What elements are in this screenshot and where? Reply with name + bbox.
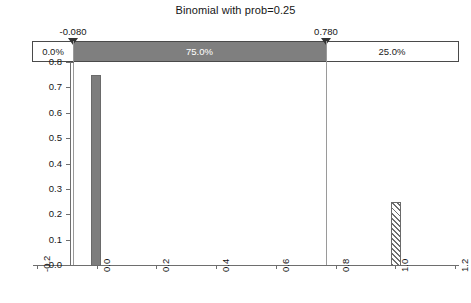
x-axis-label: 0.2 — [160, 259, 171, 272]
y-axis-line — [70, 62, 71, 265]
x-axis-tick — [276, 265, 277, 269]
y-axis-label: 0.5 — [36, 133, 62, 143]
probability-segment-between: 75.0% — [73, 42, 326, 61]
y-axis-label: 0.2 — [36, 209, 62, 219]
y-axis-cap-top — [70, 62, 74, 63]
x-axis-tick — [97, 265, 98, 269]
reference-line--0.080 — [73, 41, 74, 265]
x-axis-label: 1.0 — [399, 259, 410, 272]
right-marker-label: 0.780 — [295, 26, 357, 37]
x-axis-label: 0.8 — [340, 259, 351, 272]
probability-segment-above: 25.0% — [326, 42, 458, 61]
y-axis-tick — [66, 189, 70, 190]
y-axis-tick — [66, 214, 70, 215]
binomial-distribution-chart: Binomial with prob=0.25 0.0% 75.0% 25.0%… — [0, 0, 471, 303]
x-axis-label: 0.0 — [101, 259, 112, 272]
y-axis-label: 0.4 — [36, 159, 62, 169]
y-axis-tick — [66, 138, 70, 139]
x-axis-tick — [455, 265, 456, 269]
y-axis-label: 0.7 — [36, 82, 62, 92]
y-axis-label: 0.1 — [36, 235, 62, 245]
y-axis-tick — [66, 164, 70, 165]
x-axis-label: -0.2 — [41, 256, 52, 272]
reference-line-0.780 — [326, 41, 327, 265]
bar-x-1.0 — [391, 202, 401, 266]
y-axis-tick — [66, 87, 70, 88]
y-axis-tick — [66, 240, 70, 241]
x-axis-tick — [37, 265, 38, 269]
x-axis-label: 0.6 — [280, 259, 291, 272]
x-axis-tick — [395, 265, 396, 269]
x-axis-tick — [336, 265, 337, 269]
x-axis-tick — [156, 265, 157, 269]
bar-x-0.0 — [91, 75, 101, 266]
y-axis-tick — [66, 265, 70, 266]
chart-title: Binomial with prob=0.25 — [0, 4, 471, 16]
y-axis-label: 0.8 — [36, 57, 62, 67]
left-marker-label: -0.080 — [42, 26, 104, 37]
y-axis-label: 0.3 — [36, 184, 62, 194]
probability-summary-box: 0.0% 75.0% 25.0% — [32, 41, 459, 62]
x-axis-label: 0.4 — [220, 259, 231, 272]
y-axis-tick — [66, 113, 70, 114]
x-axis-label: 1.2 — [459, 259, 470, 272]
y-axis-tick — [66, 62, 70, 63]
y-axis-label: 0.6 — [36, 108, 62, 118]
x-axis-tick — [216, 265, 217, 269]
